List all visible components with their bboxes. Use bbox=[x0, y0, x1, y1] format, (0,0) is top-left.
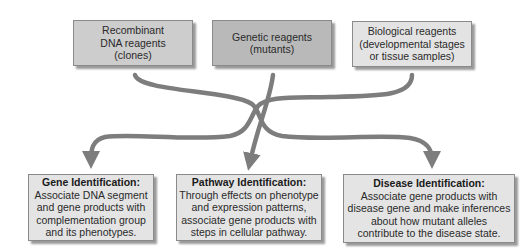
outcome-text: Associate gene products with bbox=[361, 190, 498, 203]
outcome-text: complementation group bbox=[36, 214, 146, 227]
source-text: Recombinant bbox=[102, 24, 164, 37]
outcome-text: Through effects on phenotype bbox=[179, 189, 318, 202]
outcome-text: associate gene products with bbox=[181, 214, 316, 227]
outcome-box-pathway-identification: Pathway Identification: Through effects … bbox=[176, 174, 322, 241]
source-text: Genetic reagents bbox=[232, 31, 312, 44]
source-text: DNA reagents bbox=[100, 37, 165, 50]
source-text: or tissue samples) bbox=[369, 50, 454, 63]
source-text: (mutants) bbox=[250, 43, 294, 56]
outcome-text: steps in cellular pathway. bbox=[191, 226, 308, 239]
outcome-text: and its phenotypes. bbox=[45, 226, 136, 239]
source-box-genetic-reagents: Genetic reagents (mutants) bbox=[212, 20, 332, 66]
source-text: (developmental stages bbox=[359, 38, 465, 51]
arrow-recombinant-to-disease bbox=[135, 75, 432, 160]
outcome-text: and gene products with bbox=[37, 201, 146, 214]
outcome-text: Associate DNA segment bbox=[34, 189, 147, 202]
source-text: (clones) bbox=[114, 49, 151, 62]
source-box-biological-reagents: Biological reagents (developmental stage… bbox=[352, 21, 472, 67]
source-box-recombinant-dna: Recombinant DNA reagents (clones) bbox=[73, 20, 193, 66]
outcome-title: Pathway Identification: bbox=[192, 176, 306, 189]
outcome-box-disease-identification: Disease Identification: Associate gene p… bbox=[343, 174, 515, 243]
outcome-title: Disease Identification: bbox=[373, 177, 484, 190]
outcome-box-gene-identification: Gene Identification: Associate DNA segme… bbox=[28, 174, 154, 241]
source-text: Biological reagents bbox=[368, 25, 457, 38]
outcome-text: about how mutant alleles bbox=[371, 215, 487, 228]
outcome-text: disease gene and make inferences bbox=[348, 202, 511, 215]
outcome-text: contribute to the disease state. bbox=[357, 227, 500, 240]
outcome-text: and expression patterns, bbox=[192, 201, 307, 214]
outcome-title: Gene Identification: bbox=[42, 176, 140, 189]
